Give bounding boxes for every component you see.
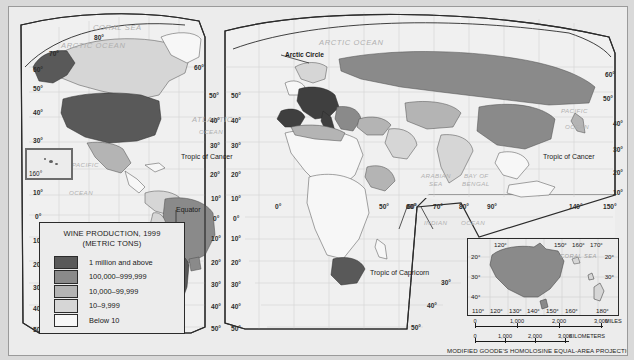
australia-inset-lat-label: 30° (605, 273, 614, 280)
legend-title-line1: WINE PRODUCTION, 1999 (47, 229, 177, 239)
scale-tick-label: 0 (473, 333, 476, 339)
coral-sea-inset-label: CORAL SEA (560, 253, 597, 259)
australia-inset-lon-label: 140° (527, 307, 540, 314)
legend-swatch (54, 256, 78, 270)
map-legend: WINE PRODUCTION, 1999 (METRIC TONS) 1 mi… (39, 222, 185, 334)
hawaii-island (55, 163, 58, 165)
map-screenshot: ARCTIC OCEANARCTIC OCEANATLANTICOCEANPAC… (0, 0, 634, 360)
legend-title-line2: (METRIC TONS) (47, 239, 177, 249)
legend-swatch (54, 314, 78, 328)
legend-row: 10,000–99,999 (47, 284, 177, 299)
australia-inset-lat-label: 20° (605, 253, 614, 260)
australia-inset-lon-label: 150° (546, 307, 559, 314)
legend-class-label: Below 10 (89, 316, 119, 325)
projection-note: MODIFIED GOODE'S HOMOLOSINE EQUAL-AREA P… (446, 347, 628, 354)
legend-row: 100,000–999,999 (47, 270, 177, 285)
australia-inset-lat-label: 20° (471, 253, 480, 260)
legend-rows: 1 million and above100,000–999,99910,000… (47, 255, 177, 328)
legend-row: Below 10 (47, 313, 177, 328)
scale-tick-label: 2,000 (552, 318, 566, 324)
australia-inset-lon-label: 160° (565, 307, 578, 314)
map-plate: ARCTIC OCEANARCTIC OCEANATLANTICOCEANPAC… (8, 6, 628, 356)
legend-class-label: 1 million and above (89, 258, 153, 267)
legend-swatch (54, 285, 78, 299)
scale-bars: 01,0002,0003,000 MILES 01,0002,0003,000 … (471, 320, 621, 346)
scale-tick-label: 1,000 (498, 333, 512, 339)
australia-inset-lon-label: 150° (554, 241, 567, 248)
australia-inset-svg (468, 239, 618, 315)
australia-inset-lon-label: 180° (596, 307, 609, 314)
scale-line-miles (475, 326, 603, 327)
scale-miles-unit: MILES (605, 318, 622, 324)
hawaii-island (49, 160, 53, 163)
scale-bar-miles: 01,0002,0003,000 MILES (471, 320, 621, 330)
australia-inset-lon-label: 110° (472, 307, 484, 314)
australia-inset-lon-label: 160° (572, 241, 585, 248)
australia-inset-lon-label: 130° (509, 307, 522, 314)
legend-class-label: 10–9,999 (89, 301, 120, 310)
legend-class-label: 10,000–99,999 (89, 287, 138, 296)
legend-row: 10–9,999 (47, 299, 177, 314)
legend-row: 1 million and above (47, 255, 177, 270)
scale-line-km (475, 341, 569, 342)
region-uruguay (189, 257, 201, 271)
hawaii-island (44, 158, 46, 160)
australia-inset-lat-label: 30° (471, 273, 480, 280)
legend-swatch (54, 299, 78, 313)
australia-inset-lon-label: 120° (494, 241, 507, 248)
australia-inset-lon-label: 170° (590, 241, 603, 248)
scale-tick-label: 1,000 (510, 318, 524, 324)
scale-km-unit: KILOMETERS (569, 333, 605, 339)
australia-inset-lon-label: 120° (490, 307, 503, 314)
legend-swatch (54, 270, 78, 284)
australia-inset-lat-label: 40° (471, 293, 480, 300)
australia-inset: CORAL SEA 120°150°160°170° 110°120°130°1… (467, 238, 619, 316)
hawaii-inset: 160° (25, 148, 73, 180)
scale-bar-kilometers: 01,0002,0003,000 KILOMETERS (471, 335, 621, 345)
legend-class-label: 100,000–999,999 (89, 272, 147, 281)
scale-tick-label: 2,000 (528, 333, 542, 339)
hawaii-inset-label: 160° (29, 170, 42, 177)
scale-tick-label: 0 (473, 318, 476, 324)
